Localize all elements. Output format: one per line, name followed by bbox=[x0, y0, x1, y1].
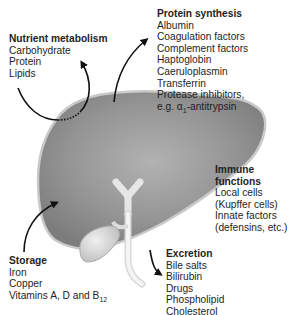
immune-title-line1: Immune bbox=[215, 164, 287, 176]
protein-item: Protease inhibitors, bbox=[157, 89, 248, 101]
protein-item: Haptoglobin bbox=[157, 54, 248, 66]
immune-item: Local cells bbox=[215, 187, 287, 199]
protein-item: Albumin bbox=[157, 20, 248, 32]
nutrient-item: Carbohydrate bbox=[9, 45, 108, 57]
immune-item: (Kupffer cells) bbox=[215, 199, 287, 211]
protein-item-antitrypsin: e.g. α1-antitrypsin bbox=[157, 101, 248, 113]
excretion-item: Drugs bbox=[166, 283, 224, 295]
storage-title: Storage bbox=[9, 255, 107, 267]
nutrient-metabolism-label: Nutrient metabolism Carbohydrate Protein… bbox=[9, 33, 108, 79]
storage-item-vitamins: Vitamins A, D and B12 bbox=[9, 290, 107, 302]
excretion-item: Phospholipid bbox=[166, 294, 224, 306]
protein-synthesis-label: Protein synthesis Albumin Coagulation fa… bbox=[157, 8, 248, 112]
suffix: -antitrypsin bbox=[187, 101, 237, 112]
nutrient-arrow bbox=[18, 88, 58, 120]
protein-item: Caeruloplasmin bbox=[157, 66, 248, 78]
prefix: Vitamins A, D and B bbox=[9, 290, 99, 301]
excretion-label: Excretion Bile salts Bilirubin Drugs Pho… bbox=[166, 248, 224, 315]
immune-functions-label: Immune functions Local cells (Kupffer ce… bbox=[215, 164, 287, 234]
storage-item: Iron bbox=[9, 267, 107, 279]
nutrient-item: Lipids bbox=[9, 68, 108, 80]
storage-label: Storage Iron Copper Vitamins A, D and B1… bbox=[9, 255, 107, 301]
excretion-item: Cholesterol bbox=[166, 306, 224, 315]
immune-title-line2: functions bbox=[215, 176, 287, 188]
immune-item: Innate factors bbox=[215, 210, 287, 222]
storage-item: Copper bbox=[9, 278, 107, 290]
nutrient-metabolism-title: Nutrient metabolism bbox=[9, 33, 108, 45]
subscript: 12 bbox=[99, 296, 107, 303]
excretion-arrow bbox=[150, 250, 160, 274]
protein-item: Transferrin bbox=[157, 78, 248, 90]
protein-synthesis-title: Protein synthesis bbox=[157, 8, 248, 20]
immune-item: (defensins, etc.) bbox=[215, 222, 287, 234]
prefix: e.g. bbox=[157, 101, 177, 112]
excretion-item: Bile salts bbox=[166, 260, 224, 272]
protein-item: Complement factors bbox=[157, 43, 248, 55]
excretion-title: Excretion bbox=[166, 248, 224, 260]
protein-item: Coagulation factors bbox=[157, 31, 248, 43]
excretion-item: Bilirubin bbox=[166, 271, 224, 283]
nutrient-item: Protein bbox=[9, 56, 108, 68]
